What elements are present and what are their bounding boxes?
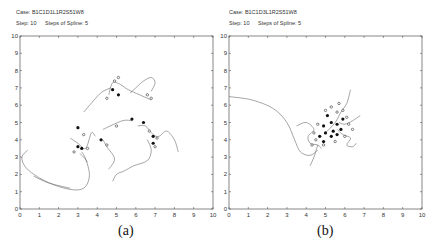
filled-marker bbox=[318, 135, 321, 138]
x-tick-label: 8 bbox=[382, 212, 386, 218]
y-tick-label: 8 bbox=[224, 68, 228, 74]
trajectory-curve bbox=[229, 97, 318, 156]
open-marker bbox=[82, 133, 84, 135]
filled-marker bbox=[111, 88, 114, 91]
open-marker bbox=[334, 140, 336, 142]
x-tick-label: 3 bbox=[285, 212, 289, 218]
open-marker bbox=[338, 102, 340, 104]
open-marker bbox=[315, 139, 317, 141]
open-marker bbox=[156, 137, 158, 139]
y-tick-label: 4 bbox=[15, 137, 19, 143]
filled-marker bbox=[326, 114, 329, 117]
open-marker bbox=[106, 97, 108, 99]
x-tick-label: 0 bbox=[18, 212, 22, 218]
trajectory-curve bbox=[109, 82, 151, 100]
x-tick-label: 8 bbox=[173, 212, 177, 218]
open-marker bbox=[347, 123, 349, 125]
filled-marker bbox=[335, 133, 338, 136]
plot-a: 012345678910012345678910 bbox=[0, 0, 219, 246]
trajectory-curve bbox=[297, 122, 322, 148]
open-marker bbox=[115, 125, 117, 127]
filled-marker bbox=[324, 131, 327, 134]
y-tick-label: 7 bbox=[15, 85, 19, 91]
open-marker bbox=[154, 146, 156, 148]
y-tick-label: 10 bbox=[11, 33, 18, 39]
y-tick-label: 1 bbox=[224, 189, 228, 195]
y-tick-label: 5 bbox=[15, 120, 19, 126]
open-marker bbox=[73, 151, 75, 153]
x-tick-label: 10 bbox=[210, 212, 217, 218]
y-tick-label: 8 bbox=[15, 68, 19, 74]
filled-marker bbox=[332, 130, 335, 133]
open-marker bbox=[346, 116, 348, 118]
x-tick-label: 10 bbox=[419, 212, 426, 218]
open-marker bbox=[117, 76, 119, 78]
trajectory-curve bbox=[103, 140, 115, 169]
trajectory-curve bbox=[22, 150, 90, 190]
open-marker bbox=[313, 132, 315, 134]
filled-marker bbox=[76, 126, 79, 129]
x-tick-label: 5 bbox=[115, 212, 119, 218]
filled-marker bbox=[130, 117, 133, 120]
open-marker bbox=[344, 135, 346, 137]
y-tick-label: 9 bbox=[224, 50, 228, 56]
x-tick-label: 7 bbox=[362, 212, 366, 218]
trajectory-curve bbox=[113, 140, 152, 182]
panel-b: Case: B1C1D3L1R2S51W8 Step: 10 Steps of … bbox=[219, 0, 438, 246]
filled-marker bbox=[152, 135, 155, 138]
x-tick-label: 6 bbox=[134, 212, 138, 218]
x-tick-label: 4 bbox=[96, 212, 100, 218]
x-tick-label: 2 bbox=[57, 212, 61, 218]
y-tick-label: 4 bbox=[224, 137, 228, 143]
filled-marker bbox=[76, 145, 79, 148]
y-tick-label: 1 bbox=[15, 189, 19, 195]
x-tick-label: 2 bbox=[266, 212, 270, 218]
x-tick-label: 9 bbox=[401, 212, 405, 218]
open-marker bbox=[342, 109, 344, 111]
open-marker bbox=[150, 97, 152, 99]
open-marker bbox=[106, 144, 108, 146]
y-tick-label: 9 bbox=[15, 50, 19, 56]
open-marker bbox=[330, 106, 332, 108]
open-marker bbox=[113, 80, 115, 82]
trajectory-curve bbox=[337, 129, 356, 146]
x-tick-label: 5 bbox=[324, 212, 328, 218]
axes-frame bbox=[229, 36, 422, 209]
y-tick-label: 2 bbox=[224, 171, 228, 177]
y-tick-label: 3 bbox=[15, 154, 19, 160]
y-tick-label: 10 bbox=[220, 33, 227, 39]
filled-marker bbox=[117, 93, 120, 96]
filled-marker bbox=[152, 142, 155, 145]
filled-marker bbox=[330, 135, 333, 138]
filled-marker bbox=[322, 124, 325, 127]
y-tick-label: 6 bbox=[15, 102, 19, 108]
filled-marker bbox=[341, 117, 344, 120]
open-marker bbox=[317, 123, 319, 125]
trajectory-curve bbox=[84, 88, 111, 112]
open-marker bbox=[336, 111, 338, 113]
y-tick-label: 2 bbox=[15, 171, 19, 177]
open-marker bbox=[324, 109, 326, 111]
plot-b: 012345678910012345678910 bbox=[219, 0, 438, 246]
filled-marker bbox=[99, 138, 102, 141]
x-tick-label: 6 bbox=[343, 212, 347, 218]
filled-marker bbox=[335, 123, 338, 126]
open-marker bbox=[148, 130, 150, 132]
trajectory-curve bbox=[103, 120, 132, 129]
y-tick-label: 3 bbox=[224, 154, 228, 160]
x-tick-label: 1 bbox=[38, 212, 42, 218]
y-tick-label: 6 bbox=[224, 102, 228, 108]
filled-marker bbox=[339, 128, 342, 131]
open-marker bbox=[146, 94, 148, 96]
x-tick-label: 9 bbox=[192, 212, 196, 218]
filled-marker bbox=[80, 147, 83, 150]
caption-a: (a) bbox=[118, 223, 134, 239]
y-tick-label: 7 bbox=[224, 85, 228, 91]
filled-marker bbox=[330, 121, 333, 124]
x-tick-label: 4 bbox=[305, 212, 309, 218]
y-tick-label: 5 bbox=[224, 120, 228, 126]
filled-marker bbox=[322, 140, 325, 143]
x-tick-label: 7 bbox=[153, 212, 157, 218]
x-tick-label: 3 bbox=[76, 212, 80, 218]
x-tick-label: 0 bbox=[227, 212, 231, 218]
